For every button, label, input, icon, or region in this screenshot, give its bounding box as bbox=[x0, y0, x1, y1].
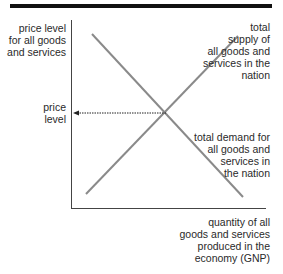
y-axis-label: price level for all goods and services bbox=[0, 22, 66, 58]
equilibrium-price-label: price level bbox=[0, 101, 66, 125]
demand-label: total demand for all goods and services … bbox=[180, 131, 270, 179]
supply-label: total supply of all goods and services i… bbox=[180, 21, 270, 81]
x-axis-label: quantity of all goods and services produ… bbox=[170, 216, 270, 264]
arrowhead-icon bbox=[73, 111, 79, 116]
